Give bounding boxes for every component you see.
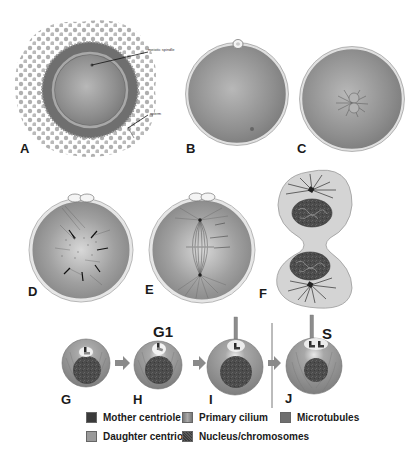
panel-letter-i: I <box>209 393 213 406</box>
arrow-h-to-i <box>193 356 206 370</box>
swatch-nucleus-chromosomes <box>182 431 193 442</box>
arrow-i-to-j <box>268 356 281 370</box>
panel-h-cell <box>134 341 182 389</box>
legend-label: Microtubules <box>297 412 359 423</box>
phase-label-s: S <box>322 326 332 341</box>
legend-label: Mother centriole <box>103 412 181 423</box>
legend-item-microtubules: Microtubules <box>280 412 359 423</box>
panel-letter-j: J <box>285 392 292 405</box>
legend-item-mother-centriole: Mother centriole <box>86 412 181 423</box>
panel-letter-c: C <box>297 142 306 155</box>
panel-d-microtubule-network <box>29 194 133 302</box>
legend-label: Primary cilium <box>199 412 268 423</box>
legend-label: Daughter centriole <box>103 431 191 442</box>
panel-c-pronuclei <box>300 47 405 152</box>
swatch-mother-centriole <box>86 412 97 423</box>
panel-letter-e: E <box>145 283 154 296</box>
swatch-microtubules <box>280 412 291 423</box>
panel-e-mitotic-spindle <box>149 193 255 303</box>
panel-f-dividing-cell <box>277 170 352 308</box>
figure-canvas <box>0 0 417 460</box>
legend-item-nucleus-chromosomes: Nucleus/chromosomes <box>182 431 309 442</box>
panel-j-cell-duplication <box>286 315 342 394</box>
legend-item-daughter-centriole: Daughter centriole <box>86 431 191 442</box>
phase-label-g1: G1 <box>153 324 173 339</box>
swatch-primary-cilium <box>182 412 193 423</box>
arrow-g-to-h <box>115 356 130 370</box>
panel-letter-d: D <box>28 285 37 298</box>
panel-letter-h: H <box>133 393 142 406</box>
panel-letter-g: G <box>61 393 71 406</box>
swatch-daughter-centriole <box>86 431 97 442</box>
panel-letter-b: B <box>186 142 195 155</box>
legend-item-primary-cilium: Primary cilium <box>182 412 268 423</box>
panel-b-fertilized-egg <box>186 40 289 146</box>
legend: Mother centriole Primary cilium Microtub… <box>86 409 386 449</box>
callout-sperm: sperm <box>150 112 180 116</box>
panel-letter-f: F <box>259 287 267 300</box>
panel-letter-a: A <box>20 142 29 155</box>
panel-i-cell-with-cilium <box>207 317 263 395</box>
panel-a-oocyte <box>15 20 156 157</box>
panel-g-cell <box>62 339 110 387</box>
callout-meiotic-spindle: meiotic spindle <box>148 48 178 52</box>
legend-label: Nucleus/chromosomes <box>199 431 309 442</box>
